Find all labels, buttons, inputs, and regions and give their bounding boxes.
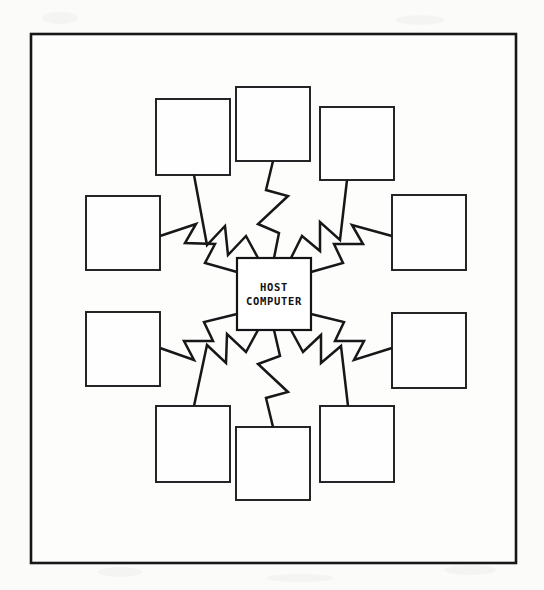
host-computer-box[interactable]	[237, 258, 311, 330]
terminal-top-left[interactable]	[156, 99, 230, 175]
terminal-right-lower[interactable]	[392, 313, 466, 388]
terminal-bottom-right[interactable]	[320, 406, 394, 482]
terminal-top-center[interactable]	[236, 87, 310, 161]
terminal-left-upper[interactable]	[86, 196, 160, 270]
terminal-left-lower[interactable]	[86, 312, 160, 386]
terminal-top-right[interactable]	[320, 107, 394, 180]
host-label-line-1: HOST	[260, 281, 288, 293]
host-computer-node[interactable]: HOST COMPUTER	[237, 258, 311, 330]
terminal-right-upper[interactable]	[392, 195, 466, 270]
terminal-bottom-left[interactable]	[156, 406, 230, 482]
figure-canvas: HOST COMPUTER	[0, 0, 544, 590]
network-diagram: HOST COMPUTER	[0, 0, 544, 590]
host-label-line-2: COMPUTER	[246, 295, 302, 307]
terminal-bottom-center[interactable]	[236, 427, 310, 500]
